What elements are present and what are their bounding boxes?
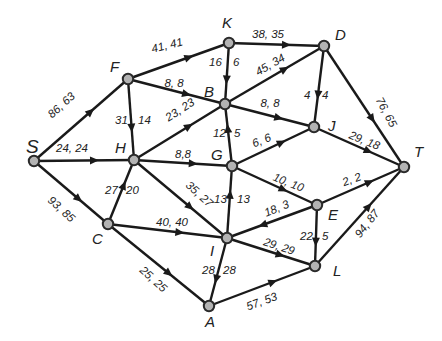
edge-label: 40, 40: [156, 216, 189, 228]
edge-flow-label: 13: [237, 193, 250, 205]
flow-network-diagram: 86, 6324, 2493, 8541, 418, 8311438, 3516…: [0, 0, 442, 341]
edge-e-t: [317, 167, 404, 205]
node-d: [319, 41, 329, 51]
arrow-icon: [127, 123, 136, 133]
arrow-icon: [226, 190, 235, 200]
node-label-l: L: [333, 262, 341, 279]
edge-flow-label: 14: [138, 114, 151, 126]
node-label-k: K: [222, 14, 233, 31]
node-label-e: E: [328, 206, 339, 223]
edge-label: 57, 53: [245, 290, 280, 312]
node-c: [103, 219, 113, 229]
arrow-icon: [189, 159, 198, 168]
edge-capacity-label: 22: [299, 230, 313, 242]
edge-flow-label: 5: [234, 127, 241, 139]
node-l: [310, 261, 320, 271]
arrow-icon: [183, 52, 194, 63]
edge-label: 76, 65: [374, 95, 400, 129]
edge-e-l: [315, 205, 317, 266]
arrows-layer: [73, 41, 378, 287]
node-s: [29, 156, 39, 166]
edge-label: 23, 23: [162, 96, 197, 124]
node-label-s: S: [26, 136, 39, 157]
edge-flow-label: 28: [222, 264, 236, 276]
edge-label: 8, 8: [260, 97, 280, 109]
edge-g-b: [225, 104, 232, 166]
arrow-icon: [90, 156, 99, 164]
node-k: [224, 38, 234, 48]
arrow-icon: [276, 137, 288, 148]
arrow-icon: [257, 220, 268, 231]
edge-flow-label: 6: [233, 56, 240, 68]
edge-f-h: [128, 79, 134, 160]
edge-capacity-label: 27: [104, 184, 118, 196]
node-label-j: J: [327, 117, 336, 134]
node-e: [312, 200, 322, 210]
edge-flow-label: 5: [322, 230, 329, 242]
edge-capacity-label: 31: [115, 114, 128, 126]
edge-label: 94, 87: [352, 207, 382, 240]
node-label-t: T: [414, 143, 425, 160]
node-b: [220, 99, 230, 109]
node-t: [399, 162, 409, 172]
arrow-icon: [183, 120, 195, 132]
edge-label: 8,8: [175, 148, 192, 160]
arrow-icon: [312, 237, 320, 246]
diagram-canvas: 86, 6324, 2493, 8541, 418, 8311438, 3516…: [0, 0, 442, 341]
edge-label: 10, 10: [271, 171, 306, 194]
edge-k-b: [225, 43, 229, 104]
edge-label: 6, 6: [250, 131, 273, 150]
node-g: [227, 161, 237, 171]
edge-label: 25, 25: [137, 263, 170, 294]
edge-capacity-label: 13: [214, 193, 227, 205]
arrow-icon: [282, 41, 291, 49]
node-i: [222, 233, 232, 243]
node-label-h: H: [115, 139, 126, 156]
edge-label: 41, 41: [150, 35, 184, 54]
edge-label: 45, 34: [253, 51, 287, 77]
node-label-g: G: [211, 146, 223, 163]
edge-capacity-label: 28: [201, 264, 215, 276]
edge-i-g: [227, 166, 232, 238]
edge-label: 86, 63: [45, 89, 77, 120]
arrow-icon: [222, 75, 231, 85]
edge-d-j: [314, 46, 324, 127]
edge-s-h: [34, 160, 134, 161]
node-h: [129, 155, 139, 165]
node-f: [123, 74, 133, 84]
node-label-f: F: [110, 58, 120, 75]
edge-capacity-label: 4: [304, 89, 310, 101]
edge-capacity-label: 16: [209, 56, 222, 68]
node-label-d: D: [335, 26, 346, 43]
edge-flow-label: 4: [322, 89, 328, 101]
arrow-icon: [364, 177, 375, 188]
node-labels-layer: SFKDBHGJTCIELA: [26, 14, 425, 330]
arrow-icon: [175, 228, 185, 237]
node-label-a: A: [204, 313, 215, 330]
node-a: [204, 301, 214, 311]
edge-label: 24, 24: [55, 142, 88, 154]
node-j: [309, 122, 319, 132]
edge-capacity-label: 12: [213, 127, 226, 139]
edge-flow-label: 20: [125, 184, 139, 196]
edge-g-j: [232, 127, 314, 166]
edge-label: 38, 35: [252, 28, 285, 40]
edge-labels-layer: 86, 6324, 2493, 8541, 418, 8311438, 3516…: [45, 28, 399, 312]
node-label-c: C: [92, 230, 103, 247]
edge-k-d: [229, 43, 324, 46]
edge-c-a: [108, 224, 209, 306]
arrow-icon: [267, 276, 278, 287]
node-label-b: B: [204, 83, 214, 100]
node-label-i: I: [210, 242, 214, 259]
edge-label: 93, 85: [46, 194, 78, 225]
edge-label: 8, 8: [164, 77, 184, 89]
